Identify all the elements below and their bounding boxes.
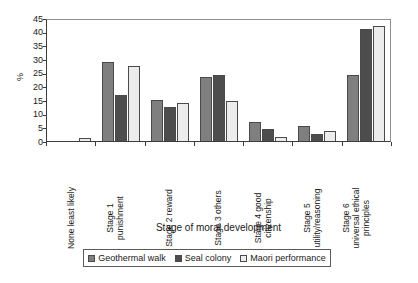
category-label-text: Stage 5utility/reasoning: [302, 188, 322, 247]
legend-swatch: [175, 255, 182, 262]
category-label-slot: Stage 5utility/reasoning: [292, 146, 341, 218]
category-label-text: Stage 3 others: [213, 190, 223, 245]
category-label-text: None least likely: [66, 187, 76, 249]
y-tick-label: 30: [33, 56, 43, 65]
category-label-line: Stage 2 reward: [164, 189, 174, 247]
category-label-line: Stage 4 good: [253, 193, 263, 244]
bar: [226, 101, 238, 141]
bar: [128, 66, 140, 141]
bar: [164, 107, 176, 141]
bar: [262, 129, 274, 141]
x-axis-title: Stage of moral development: [46, 222, 391, 233]
category-label-text: Stage 6universal ethicalprinciples: [341, 188, 371, 249]
chart-legend: Geothermal walkSeal colonyMaori performa…: [83, 249, 331, 267]
bar: [102, 62, 114, 141]
bar: [275, 137, 287, 141]
bar: [249, 122, 261, 141]
y-tick-label: 45: [33, 15, 43, 24]
y-tick-label: 20: [33, 83, 43, 92]
y-axis-tick-labels: 051015202530354045: [24, 14, 46, 144]
category-label-slot: Stage 3 others: [194, 146, 243, 218]
category-label-text: Stage 2 reward: [164, 189, 174, 247]
category-label-text: Stage 4 goodcitizenship: [253, 193, 273, 244]
category-label-slot: Stage 6universal ethicalprinciples: [342, 146, 391, 218]
bar: [298, 126, 310, 141]
bar-group: [292, 20, 341, 141]
bar: [79, 138, 91, 141]
bar-group: [145, 20, 194, 141]
category-label-text: Stage 1punishment: [105, 196, 125, 240]
bar-group: [243, 20, 292, 141]
category-label-line: None least likely: [66, 187, 76, 249]
category-label-line: Stage 6: [341, 188, 351, 249]
bar-group: [47, 20, 96, 141]
legend-swatch: [240, 255, 247, 262]
category-label-line: punishment: [115, 196, 125, 240]
category-label-line: utility/reasoning: [312, 188, 322, 247]
bar: [324, 131, 336, 141]
category-label-line: Stage 3 others: [213, 190, 223, 245]
category-label-line: Stage 1: [105, 196, 115, 240]
bar-groups: [47, 20, 390, 141]
category-label-line: Stage 5: [302, 188, 312, 247]
category-label-slot: Stage 4 goodcitizenship: [243, 146, 292, 218]
y-tick-label: 40: [33, 28, 43, 37]
legend-item: Geothermal walk: [88, 253, 166, 263]
x-axis-category-labels: None least likelyStage 1punishmentStage …: [46, 146, 391, 218]
bar: [177, 103, 189, 141]
bar: [213, 75, 225, 141]
y-tick-label: 25: [33, 69, 43, 78]
legend-label: Seal colony: [185, 253, 232, 263]
bar: [347, 75, 359, 141]
bar-group: [341, 20, 390, 141]
bar: [360, 29, 372, 141]
category-label-line: universal ethical: [351, 188, 361, 249]
bar-chart-figure: % 051015202530354045 None least likelySt…: [0, 0, 418, 283]
category-label-line: citizenship: [263, 193, 273, 244]
bar: [311, 134, 323, 141]
category-label-slot: Stage 2 reward: [145, 146, 194, 218]
bar: [115, 95, 127, 141]
bar: [373, 26, 385, 141]
y-tick-label: 10: [33, 110, 43, 119]
bar-group: [194, 20, 243, 141]
legend-item: Maori performance: [240, 253, 326, 263]
plot-area: [46, 19, 391, 142]
legend-item: Seal colony: [175, 253, 232, 263]
y-tick-label: 35: [33, 42, 43, 51]
x-tick-mark: [391, 142, 392, 146]
legend-label: Geothermal walk: [98, 253, 166, 263]
category-label-line: principles: [361, 188, 371, 249]
legend-swatch: [88, 255, 95, 262]
bar-group: [96, 20, 145, 141]
bar: [151, 100, 163, 141]
category-label-slot: Stage 1punishment: [95, 146, 144, 218]
legend-label: Maori performance: [250, 253, 326, 263]
bar: [200, 77, 212, 141]
category-label-slot: None least likely: [46, 146, 95, 218]
y-tick-label: 15: [33, 97, 43, 106]
